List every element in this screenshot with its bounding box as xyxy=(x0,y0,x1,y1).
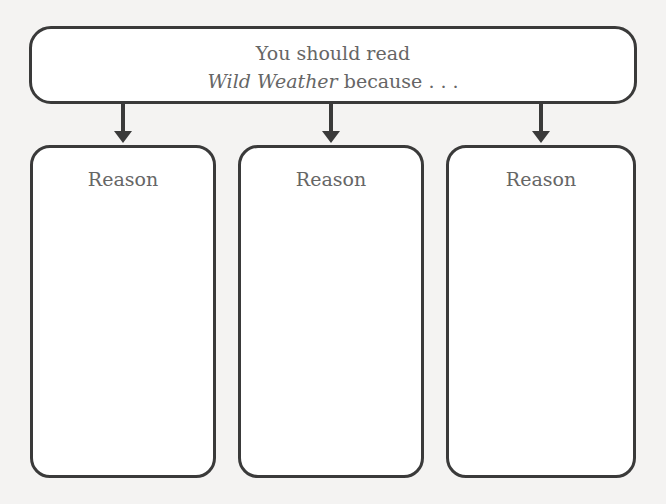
reason-box-3[interactable]: Reason xyxy=(446,145,636,478)
reason-label-1: Reason xyxy=(88,168,158,190)
book-title: Wild Weather xyxy=(207,70,337,92)
arrow-head-2 xyxy=(322,131,340,143)
prompt-line-2: Wild Weather because . . . xyxy=(32,67,634,95)
reason-box-2[interactable]: Reason xyxy=(238,145,424,478)
reason-box-1[interactable]: Reason xyxy=(30,145,216,478)
arrow-head-1 xyxy=(114,131,132,143)
arrow-2 xyxy=(329,103,333,133)
reason-label-2: Reason xyxy=(296,168,366,190)
reason-label-3: Reason xyxy=(506,168,576,190)
prompt-box: You should read Wild Weather because . .… xyxy=(29,26,637,104)
prompt-line-2-rest: because . . . xyxy=(338,70,459,92)
arrow-3 xyxy=(539,103,543,133)
arrow-head-3 xyxy=(532,131,550,143)
arrow-1 xyxy=(121,103,125,133)
prompt-line-1: You should read xyxy=(32,39,634,67)
